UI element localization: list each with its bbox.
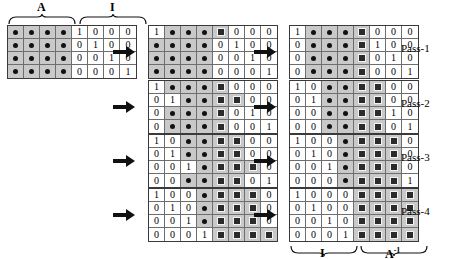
boxed-x-icon [229, 135, 245, 148]
matrix-cell-value: 0 [149, 202, 165, 215]
matrix-cell-value: 0 [290, 52, 306, 65]
boxed-x-icon [213, 174, 229, 187]
matrix-cell-value: 0 [165, 189, 181, 202]
matrix-cell-value: 0 [181, 228, 197, 241]
dot-icon [338, 65, 354, 78]
boxed-x-icon [354, 26, 370, 39]
dot-icon [165, 26, 181, 39]
dot-icon [338, 148, 354, 161]
matrix-cell-value: 0 [245, 65, 261, 78]
matrix-cell-value: 1 [165, 94, 181, 107]
boxed-x-icon [370, 94, 386, 107]
boxed-x-icon [229, 215, 245, 228]
matrix-cell-value: 0 [261, 81, 277, 94]
a-inverse-exponent: -1 [394, 246, 401, 255]
dot-icon [181, 107, 197, 120]
matrix-cell-value: 0 [261, 189, 277, 202]
matrix-cell-value: 1 [165, 202, 181, 215]
matrix-cell-value: 0 [322, 189, 338, 202]
boxed-x-icon [354, 174, 370, 187]
arrow-pass-1-a [113, 46, 135, 58]
brace-top-A [8, 14, 76, 25]
matrix-cell-value: 0 [245, 81, 261, 94]
matrix-row: 0001 [290, 228, 418, 241]
dot-icon [306, 65, 322, 78]
dot-icon [24, 26, 40, 39]
matrix-cell-value: 1 [306, 148, 322, 161]
dot-icon [24, 65, 40, 78]
boxed-x-icon [370, 107, 386, 120]
matrix-row: 0001 [290, 65, 418, 78]
matrix-cell-value: 1 [290, 26, 306, 39]
matrix-cell-value: 0 [370, 65, 386, 78]
matrix-row: 0001 [149, 120, 277, 133]
boxed-x-icon [370, 202, 386, 215]
matrix-row: 0001 [290, 120, 418, 133]
matrix-row: 1000 [149, 189, 277, 202]
matrix-row: 1000 [149, 135, 277, 148]
matrix-row: 0010 [290, 107, 418, 120]
matrix-cell-value: 0 [245, 174, 261, 187]
dot-icon [338, 39, 354, 52]
matrix-cell-value: 0 [290, 39, 306, 52]
boxed-x-icon [229, 189, 245, 202]
boxed-x-icon [354, 52, 370, 65]
boxed-x-icon [213, 161, 229, 174]
matrix-cell-value: 0 [306, 228, 322, 241]
matrix-cell-value: 0 [306, 135, 322, 148]
matrix-cell-value: 0 [245, 135, 261, 148]
boxed-x-icon [386, 215, 402, 228]
matrix-cell-value: 0 [290, 65, 306, 78]
matrix-row: 0010 [290, 161, 418, 174]
matrix-cell-value: 1 [290, 189, 306, 202]
dot-icon [8, 52, 24, 65]
matrix-cell-value: 0 [120, 26, 136, 39]
dot-icon [8, 65, 24, 78]
dot-icon [165, 65, 181, 78]
pass-2-label: Pass-2 [401, 97, 430, 109]
matrix-cell-value: 0 [402, 81, 418, 94]
brace-label-I-result: I [320, 246, 325, 259]
pass-3-label: Pass-3 [401, 151, 430, 163]
matrix-cell-value: 0 [290, 161, 306, 174]
matrix-cell-value: 0 [370, 52, 386, 65]
boxed-x-icon [229, 174, 245, 187]
dot-icon [322, 107, 338, 120]
matrix-cell-value: 1 [290, 135, 306, 148]
matrix-cell-value: 1 [149, 189, 165, 202]
boxed-x-icon [354, 39, 370, 52]
dot-icon [197, 26, 213, 39]
boxed-x-icon [213, 107, 229, 120]
dot-icon [322, 26, 338, 39]
boxed-x-icon [354, 81, 370, 94]
boxed-x-icon [213, 202, 229, 215]
matrix-row: 0100 [290, 94, 418, 107]
matrix-cell-value: 1 [402, 65, 418, 78]
a-inverse-base: A [385, 247, 394, 259]
matrix-cell-value: 0 [165, 228, 181, 241]
matrix-cell-value: 0 [213, 65, 229, 78]
boxed-x-icon [386, 135, 402, 148]
matrix-cell-value: 0 [386, 65, 402, 78]
matrix-cell-value: 1 [229, 39, 245, 52]
dot-icon [40, 52, 56, 65]
dot-icon [181, 52, 197, 65]
matrix-cell-value: 1 [88, 39, 104, 52]
dot-icon [149, 65, 165, 78]
boxed-x-icon [354, 161, 370, 174]
boxed-x-icon [354, 189, 370, 202]
matrix-row: 1000 [290, 135, 418, 148]
matrix-cell-value: 0 [306, 215, 322, 228]
matrix-cell-value: 1 [386, 52, 402, 65]
dot-icon [322, 65, 338, 78]
boxed-x-icon [213, 215, 229, 228]
dot-icon [306, 39, 322, 52]
boxed-x-icon [213, 120, 229, 133]
matrix-cell-value: 1 [149, 135, 165, 148]
boxed-x-icon [370, 215, 386, 228]
matrix-cell-value: 0 [149, 94, 165, 107]
dot-icon [181, 135, 197, 148]
matrix-cell-value: 0 [149, 161, 165, 174]
dot-icon [197, 148, 213, 161]
arrow-pass-1-b [254, 46, 276, 58]
